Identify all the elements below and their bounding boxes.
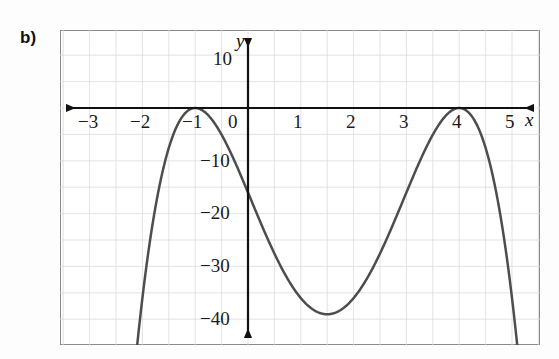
x-tick-label-3: 3: [399, 112, 409, 131]
y-tick-label--40: −40: [200, 309, 230, 328]
y-tick-label--10: −10: [200, 151, 230, 170]
x-tick-label-0: 0: [228, 112, 238, 131]
y-axis-label: y: [236, 31, 244, 50]
x-tick-label--1: −1: [182, 112, 202, 131]
axes: [60, 30, 540, 345]
y-tick-label-10: 10: [213, 49, 232, 68]
y-tick-label--30: −30: [200, 256, 230, 275]
x-tick-label-1: 1: [293, 112, 303, 131]
figure-container: b) −3 −2 −1 0 1 2 3 4 5 10 −10 −20 −30 −…: [0, 0, 559, 359]
x-tick-label--3: −3: [78, 112, 98, 131]
x-tick-label-4: 4: [452, 112, 462, 131]
y-tick-label--20: −20: [200, 203, 230, 222]
x-tick-label-5: 5: [505, 112, 515, 131]
part-label: b): [20, 28, 36, 48]
x-tick-label--2: −2: [130, 112, 150, 131]
x-axis-label: x: [525, 110, 533, 129]
x-tick-label-2: 2: [346, 112, 356, 131]
